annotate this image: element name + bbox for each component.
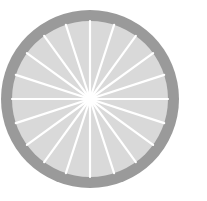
wheel-icon: [0, 0, 207, 201]
wheel-hub-glow: [81, 90, 99, 108]
